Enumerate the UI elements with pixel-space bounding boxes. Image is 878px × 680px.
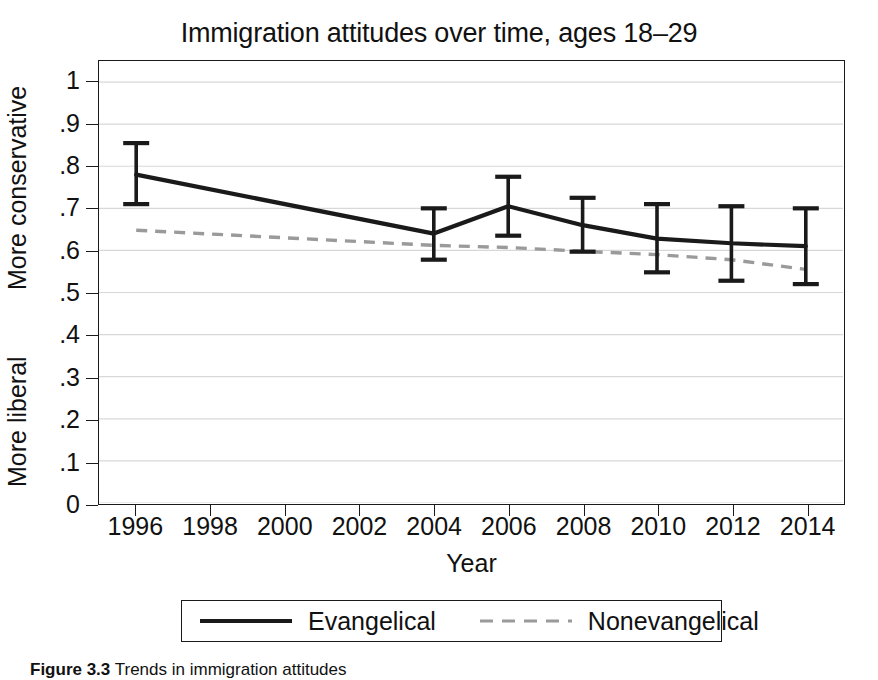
y-axis-tick-label: .1 bbox=[34, 450, 80, 475]
y-axis-tick-label: .3 bbox=[34, 365, 80, 390]
y-axis-tick-label: .9 bbox=[34, 111, 80, 136]
y-axis-tick-mark bbox=[86, 293, 98, 294]
legend: Evangelical Nonevangelical bbox=[181, 600, 722, 642]
legend-label-evangelical: Evangelical bbox=[308, 609, 436, 634]
legend-label-nonevangelical: Nonevangelical bbox=[588, 609, 759, 634]
y-axis-tick-labels: 0.1.2.3.4.5.6.7.8.91 bbox=[34, 0, 80, 672]
y-axis-tick-label: .7 bbox=[34, 195, 80, 220]
legend-key-solid-line bbox=[198, 613, 294, 629]
figure-caption-text: Trends in immigration attitudes bbox=[115, 660, 347, 679]
plot-svg bbox=[99, 61, 843, 503]
y-axis-tick-label: .6 bbox=[34, 238, 80, 263]
y-axis-tick-label: .8 bbox=[34, 153, 80, 178]
legend-key-dashed-line bbox=[478, 613, 574, 629]
figure-caption-label: Figure 3.3 bbox=[30, 660, 110, 679]
y-axis-tick-mark bbox=[86, 124, 98, 125]
y-axis-tick-mark bbox=[86, 208, 98, 209]
y-axis-tick-mark bbox=[86, 81, 98, 82]
x-axis-tick-label: 2014 bbox=[748, 513, 868, 540]
y-axis-title-conservative: More conservative bbox=[4, 86, 30, 290]
y-axis-title-liberal: More liberal bbox=[4, 356, 30, 487]
series-line-nonevangelical bbox=[136, 230, 806, 269]
y-axis-tick-mark bbox=[86, 166, 98, 167]
y-axis-tick-label: .5 bbox=[34, 280, 80, 305]
y-axis-tick-mark bbox=[86, 335, 98, 336]
y-axis-tick-label: 1 bbox=[34, 68, 80, 93]
y-axis-tick-mark bbox=[86, 463, 98, 464]
y-axis-tick-label: .2 bbox=[34, 407, 80, 432]
y-axis-tick-mark bbox=[86, 420, 98, 421]
y-axis-tick-label: 0 bbox=[34, 492, 80, 517]
y-axis-tick-mark bbox=[86, 251, 98, 252]
y-axis-tick-mark bbox=[86, 505, 98, 506]
legend-entry-evangelical[interactable]: Evangelical bbox=[198, 601, 436, 641]
legend-entry-nonevangelical[interactable]: Nonevangelical bbox=[478, 601, 759, 641]
chart-title: Immigration attitudes over time, ages 18… bbox=[0, 17, 878, 49]
plot-area bbox=[98, 60, 845, 505]
y-axis-tick-label: .4 bbox=[34, 322, 80, 347]
x-axis-title: Year bbox=[98, 549, 845, 577]
series-errorbars-evangelical bbox=[123, 143, 819, 284]
figure-caption: Figure 3.3 Trends in immigration attitud… bbox=[30, 659, 860, 680]
y-axis-tick-mark bbox=[86, 378, 98, 379]
gridlines bbox=[99, 82, 843, 503]
